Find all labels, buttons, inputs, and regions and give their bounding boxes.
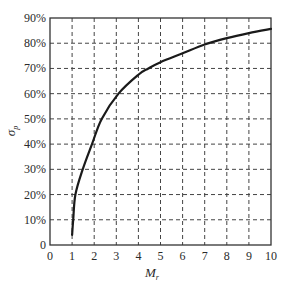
x-axis-label: Mr — [144, 265, 160, 282]
y-tick-label: 0 — [40, 238, 46, 252]
x-tick-label: 1 — [69, 249, 75, 263]
y-tick-label: 80% — [24, 36, 46, 50]
y-tick-label: 50% — [24, 112, 46, 126]
y-tick-label: 60% — [24, 87, 46, 101]
x-tick-label: 3 — [113, 249, 119, 263]
y-tick-label: 90% — [24, 11, 46, 25]
x-tick-label: 8 — [224, 249, 230, 263]
x-tick-label: 6 — [180, 249, 186, 263]
x-axis-ticks: 012345678910 — [47, 249, 277, 263]
y-tick-label: 30% — [24, 162, 46, 176]
y-axis-ticks: 010%20%30%40%50%60%70%80%90% — [24, 11, 46, 252]
y-tick-label: 10% — [24, 213, 46, 227]
x-tick-label: 7 — [202, 249, 208, 263]
y-tick-label: 20% — [24, 188, 46, 202]
grid-lines — [50, 18, 271, 245]
x-tick-label: 5 — [158, 249, 164, 263]
x-tick-label: 2 — [91, 249, 97, 263]
y-tick-label: 40% — [24, 137, 46, 151]
y-axis-label: σp — [3, 126, 20, 136]
x-tick-label: 0 — [47, 249, 53, 263]
x-tick-label: 10 — [265, 249, 277, 263]
data-line — [72, 29, 271, 235]
y-tick-label: 70% — [24, 61, 46, 75]
x-tick-label: 4 — [135, 249, 141, 263]
chart-svg: 010%20%30%40%50%60%70%80%90% 01234567891… — [0, 0, 286, 289]
chart: 010%20%30%40%50%60%70%80%90% 01234567891… — [0, 0, 286, 289]
x-tick-label: 9 — [246, 249, 252, 263]
